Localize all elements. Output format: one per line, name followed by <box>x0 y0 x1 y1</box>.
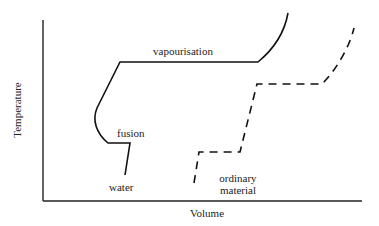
fusion-label: fusion <box>117 127 145 139</box>
y-axis-label: Temperature <box>11 75 23 145</box>
ordinary-material-label: ordinary material <box>208 172 268 196</box>
ordinary-label-line2: material <box>208 184 268 196</box>
ordinary-label-line1: ordinary <box>208 172 268 184</box>
water-label: water <box>109 181 133 193</box>
ordinary-material-curve <box>194 28 354 183</box>
water-curve <box>95 13 288 175</box>
phase-diagram-plot <box>0 0 379 226</box>
x-axis-label: Volume <box>190 207 224 219</box>
vapourisation-label: vapourisation <box>153 45 213 57</box>
